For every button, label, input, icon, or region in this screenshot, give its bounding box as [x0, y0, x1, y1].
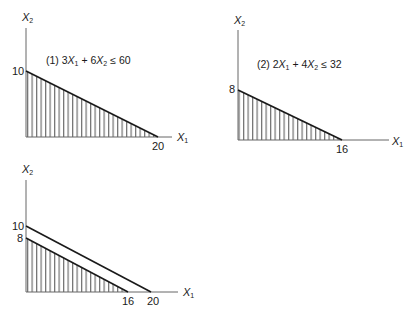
y-axis-label: X2 — [22, 12, 33, 26]
x-intercept-label-16: 16 — [122, 296, 134, 307]
x-axis-label: X1 — [183, 287, 194, 301]
y-intercept-label-8: 8 — [17, 233, 23, 244]
x-axis-label: X1 — [177, 132, 188, 146]
y-intercept-label: 8 — [229, 84, 235, 95]
y-axis-label: X2 — [234, 15, 245, 29]
x-intercept-label-20: 20 — [147, 296, 159, 307]
x-intercept-label: 16 — [336, 144, 348, 155]
equation-1: (1) 3X1 + 6X2 ≤ 60 — [46, 55, 131, 69]
equation-2: (2) 2X1 + 4X2 ≤ 32 — [257, 59, 342, 73]
constraint-diagrams — [0, 0, 416, 326]
y-axis-label: X2 — [22, 164, 33, 178]
y-intercept-label-10: 10 — [12, 221, 24, 232]
panel-3-graph — [26, 180, 178, 292]
panel-1-graph — [26, 28, 172, 137]
panel-2-graph — [238, 30, 389, 140]
x-intercept-label: 20 — [152, 141, 164, 152]
y-intercept-label: 10 — [12, 66, 24, 77]
x-axis-label: X1 — [392, 136, 403, 150]
